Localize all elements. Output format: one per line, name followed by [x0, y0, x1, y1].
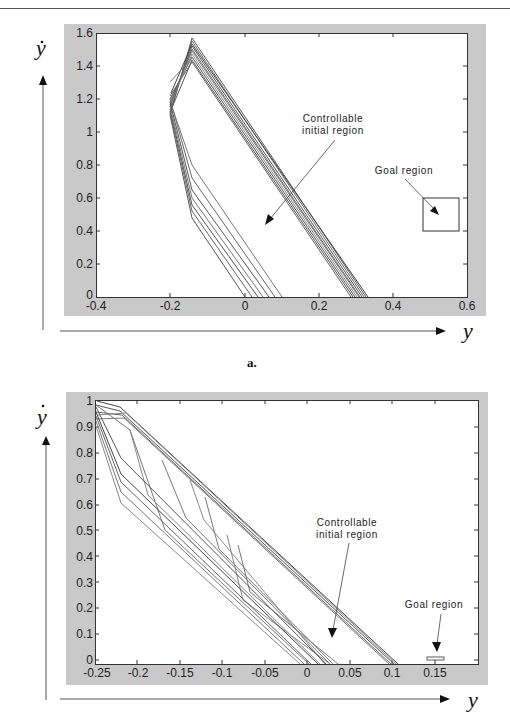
plot-b-ydot-label: y	[35, 404, 47, 429]
x-tick-label: -0.05	[251, 666, 279, 680]
plot-b-goal-arrowhead-icon	[432, 642, 441, 652]
plot-b-controllable-arrowhead-icon	[328, 628, 337, 638]
plot-b-svg: 1 0.9 0.8 0.7 0.6 0.5 0.4 0.3 0.2 0.1 0 …	[0, 0, 510, 714]
x-tick-label: 0.1	[384, 666, 401, 680]
y-tick-label: 0.5	[76, 524, 93, 538]
plot-b-ydot-dot	[42, 405, 45, 408]
plot-b-annotation-goal: Goal region	[405, 599, 463, 610]
x-tick-label: -0.2	[128, 666, 149, 680]
plot-b-y-arrow-icon	[440, 695, 450, 703]
plot-b-annotation-controllable-line1: Controllable	[317, 517, 378, 528]
plot-b-ydot-arrow-icon	[42, 436, 50, 445]
y-tick-label: 0.7	[76, 472, 93, 486]
y-tick-label: 0.4	[76, 550, 93, 564]
y-tick-label: 1	[86, 394, 93, 408]
x-tick-label: -0.15	[166, 666, 194, 680]
y-tick-label: 0.9	[76, 420, 93, 434]
plot-b-y-label: y	[466, 687, 478, 712]
x-tick-label: -0.25	[83, 666, 111, 680]
y-tick-label: 0.8	[76, 446, 93, 460]
plot-b-goal-region-box	[427, 657, 444, 660]
x-tick-label: 0	[304, 666, 311, 680]
x-tick-label: 0.15	[423, 666, 447, 680]
y-tick-label: 0.3	[76, 576, 93, 590]
plot-b-y-ticks: 1 0.9 0.8 0.7 0.6 0.5 0.4 0.3 0.2 0.1 0	[76, 394, 93, 667]
plot-b-annotation-controllable-line2: initial region	[316, 529, 378, 540]
x-tick-label: 0.05	[338, 666, 362, 680]
x-tick-label: -0.1	[212, 666, 233, 680]
y-tick-label: 0.1	[76, 627, 93, 641]
plot-b-x-ticks: -0.25 -0.2 -0.15 -0.1 -0.05 0 0.05 0.1 0…	[83, 666, 447, 680]
y-tick-label: 0	[86, 653, 93, 667]
plot-b-goal-arrow-line	[437, 614, 441, 644]
y-tick-label: 0.2	[76, 601, 93, 615]
y-tick-label: 0.6	[76, 498, 93, 512]
